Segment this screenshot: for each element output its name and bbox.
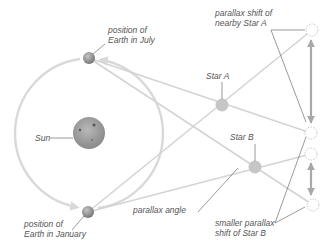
pointer-earth-july — [93, 44, 105, 54]
label-sun: Sun — [35, 133, 50, 143]
orbit-arc-right — [98, 60, 163, 208]
label-star-a: Star A — [206, 71, 230, 81]
star-b — [249, 161, 262, 174]
label-parallax-shift-b: smaller parallax shift of Star B — [215, 218, 277, 238]
sun — [73, 117, 105, 149]
star-a — [216, 99, 229, 112]
parallax-diagram: position of Earth in July position of Ea… — [0, 0, 331, 252]
label-earth-july: position of Earth in July — [107, 25, 156, 45]
label-parallax-angle: parallax angle — [132, 205, 186, 215]
apparent-position-star-b-july — [307, 199, 319, 211]
pointer-earth-january — [72, 216, 84, 230]
pointer-shift-a — [271, 30, 306, 122]
ray-january-star-b — [88, 154, 311, 212]
label-parallax-shift-a: parallax shift of nearby Star A — [214, 8, 275, 28]
label-star-b: Star B — [230, 132, 254, 142]
pointer-shift-b — [275, 137, 306, 223]
apparent-position-star-a-july — [305, 127, 317, 139]
sun-spot — [79, 129, 81, 131]
pointer-parallax-angle — [198, 168, 238, 212]
label-earth-january: position of Earth in January — [23, 219, 87, 239]
ray-january-star-a — [88, 30, 312, 212]
sun-spot — [91, 139, 93, 141]
sun-spot — [93, 124, 96, 127]
apparent-position-star-a-january — [306, 24, 318, 36]
apparent-position-star-b-january — [305, 148, 317, 160]
